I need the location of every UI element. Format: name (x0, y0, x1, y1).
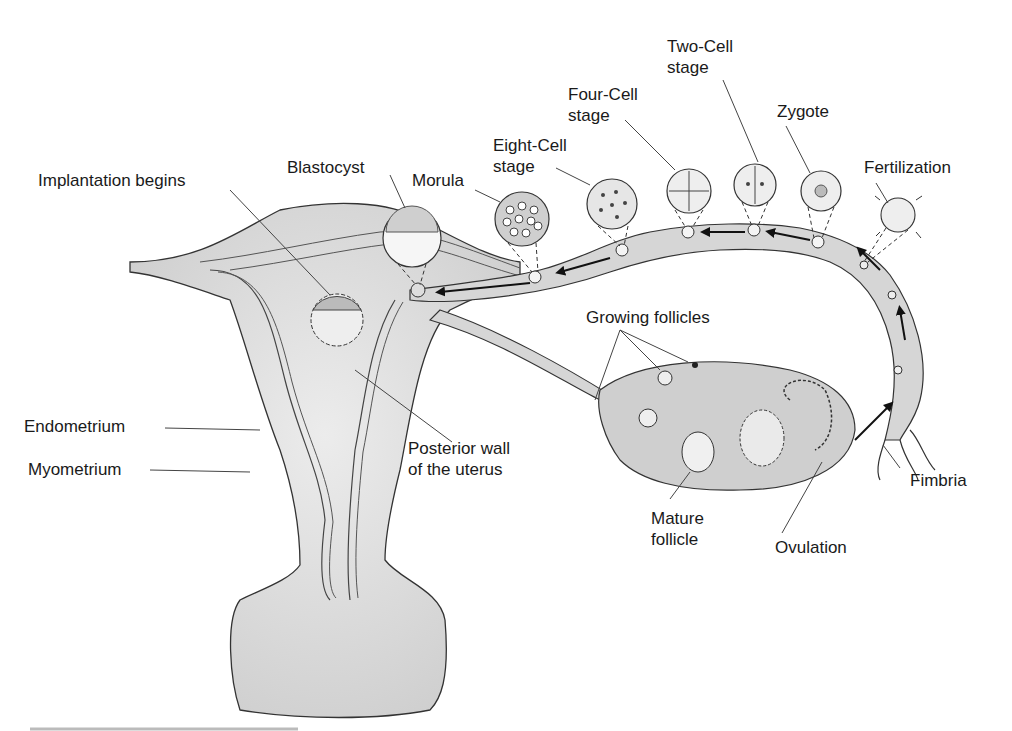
two-cell-circle (734, 164, 776, 206)
blastocyst-circle (383, 206, 441, 267)
ovarian-ligament (430, 310, 610, 400)
eight-cell-circle (587, 179, 637, 229)
label-fimbria: Fimbria (910, 470, 967, 491)
label-ovulation: Ovulation (775, 537, 847, 558)
fertilization-circle (875, 196, 922, 238)
label-two-cell-stage: Two-Cell stage (667, 36, 733, 78)
zygote-circle (801, 171, 841, 211)
morula-circle (495, 192, 549, 246)
reproductive-tract-illustration (0, 0, 1012, 731)
implanting-blastocyst (311, 294, 363, 346)
label-endometrium: Endometrium (24, 416, 125, 437)
label-mature-follicle: Mature follicle (651, 508, 704, 550)
four-cell-circle (667, 169, 711, 213)
label-myometrium: Myometrium (28, 459, 122, 480)
label-posterior-wall: Posterior wall of the uterus (408, 438, 510, 480)
label-morula: Morula (412, 170, 464, 191)
label-fertilization: Fertilization (864, 157, 951, 178)
label-zygote: Zygote (777, 101, 829, 122)
label-blastocyst: Blastocyst (287, 157, 364, 178)
label-implantation-begins: Implantation begins (38, 170, 185, 191)
label-four-cell-stage: Four-Cell stage (568, 84, 638, 126)
label-eight-cell-stage: Eight-Cell stage (493, 135, 567, 177)
label-growing-follicles: Growing follicles (586, 307, 710, 328)
